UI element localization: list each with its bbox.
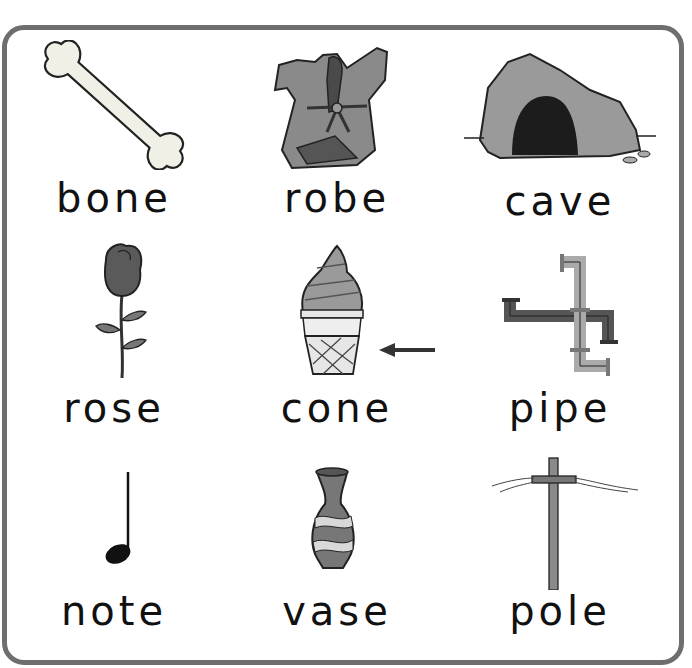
- bone-icon: [14, 40, 214, 170]
- cell-bone: bone: [14, 40, 214, 230]
- cell-cone: cone: [237, 240, 437, 440]
- rose-icon: [14, 240, 214, 380]
- utility-pole-icon: [460, 450, 660, 590]
- cell-pole: pole: [460, 450, 660, 650]
- cell-cave: cave: [460, 40, 660, 230]
- word-label: pipe: [460, 385, 660, 431]
- robe-icon: [237, 40, 437, 170]
- word-label: cave: [460, 178, 660, 224]
- word-label: bone: [14, 175, 214, 221]
- vase-icon: [237, 450, 437, 590]
- cell-rose: rose: [14, 240, 214, 440]
- word-label: robe: [237, 175, 437, 221]
- cell-pipe: pipe: [460, 240, 660, 440]
- cell-vase: vase: [237, 450, 437, 650]
- word-label: cone: [237, 385, 437, 431]
- arrow-left-icon: [377, 340, 437, 360]
- music-note-icon: [14, 450, 214, 590]
- word-label: note: [14, 588, 214, 634]
- word-label: vase: [237, 588, 437, 634]
- word-label: pole: [460, 588, 660, 634]
- cell-note: note: [14, 450, 214, 650]
- cave-icon: [460, 40, 660, 170]
- word-label: rose: [14, 385, 214, 431]
- pipe-icon: [460, 240, 660, 380]
- cell-robe: robe: [237, 40, 437, 230]
